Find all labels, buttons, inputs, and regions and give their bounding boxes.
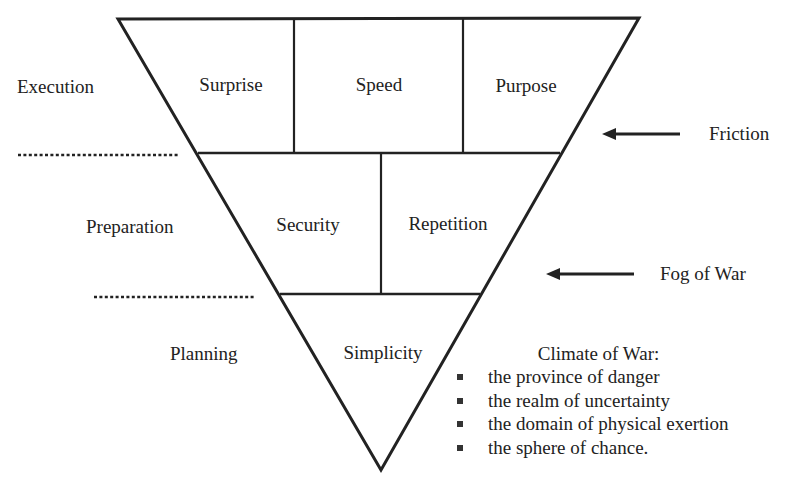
- list-item: the sphere of chance.: [457, 436, 729, 460]
- force-label-fog-of-war: Fog of War: [660, 264, 746, 283]
- square-bullet-icon: [457, 374, 463, 380]
- climate-item-text: the sphere of chance.: [488, 437, 648, 458]
- climate-title: Climate of War:: [481, 342, 716, 365]
- square-bullet-icon: [457, 398, 463, 404]
- level-label-preparation: Preparation: [86, 217, 174, 236]
- level-label-planning: Planning: [170, 344, 238, 363]
- cell-purpose: Purpose: [495, 76, 556, 95]
- list-item: the province of danger: [457, 365, 729, 389]
- climate-item-text: the realm of uncertainty: [488, 390, 670, 411]
- square-bullet-icon: [457, 445, 463, 451]
- climate-item-text: the domain of physical exertion: [488, 413, 729, 434]
- square-bullet-icon: [457, 421, 463, 427]
- list-item: the domain of physical exertion: [457, 412, 729, 436]
- cell-simplicity: Simplicity: [343, 343, 422, 362]
- level-label-execution: Execution: [17, 77, 94, 96]
- cell-repetition: Repetition: [408, 214, 487, 233]
- force-label-friction: Friction: [709, 124, 769, 143]
- cell-speed: Speed: [356, 75, 402, 94]
- left-arrow-icon: [546, 268, 634, 280]
- left-arrow-icon: [602, 128, 680, 140]
- cell-security: Security: [276, 215, 339, 234]
- climate-list: the province of danger the realm of unce…: [457, 365, 729, 459]
- climate-of-war: Climate of War: the province of danger t…: [457, 342, 729, 459]
- climate-item-text: the province of danger: [488, 366, 659, 387]
- list-item: the realm of uncertainty: [457, 389, 729, 413]
- cell-surprise: Surprise: [199, 75, 262, 94]
